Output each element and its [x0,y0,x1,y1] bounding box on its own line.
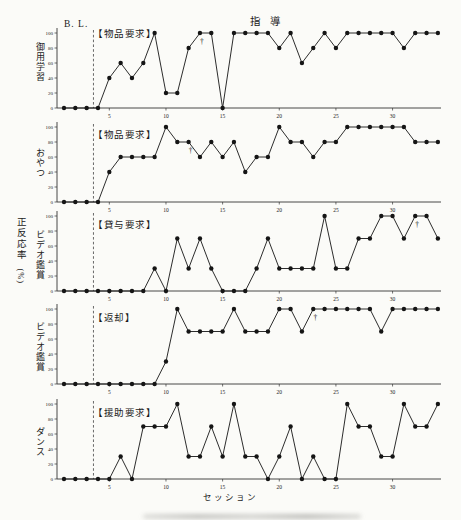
svg-text:20: 20 [48,91,54,96]
subplot-1: 02040608010051015202530† [46,28,442,119]
svg-text:20: 20 [48,185,54,190]
figure: 02040608010051015202530†0204060801005101… [0,0,461,520]
svg-text:100: 100 [46,125,54,130]
svg-text:80: 80 [48,140,54,145]
svg-text:15: 15 [220,484,226,490]
svg-text:30: 30 [390,207,396,213]
svg-text:30: 30 [390,113,396,119]
x-axis-label: セッション [0,490,461,502]
svg-text:25: 25 [333,484,339,490]
svg-text:10: 10 [163,296,169,302]
svg-text:25: 25 [333,296,339,302]
dagger-marker-subplot-1: † [200,37,204,46]
charts-container: 02040608010051015202530†0204060801005101… [0,0,461,520]
svg-text:5: 5 [108,484,111,490]
svg-text:60: 60 [48,244,54,249]
svg-text:0: 0 [51,200,54,205]
svg-text:10: 10 [163,207,169,213]
row-label-dance: ダンス [34,427,47,457]
y-axis-unit: (%) [16,269,26,285]
svg-text:100: 100 [46,214,54,219]
svg-text:25: 25 [333,207,339,213]
row-label-video-1: ビデオ鑑賞 [34,230,47,280]
svg-text:30: 30 [390,296,396,302]
svg-text:10: 10 [163,484,169,490]
svg-text:40: 40 [48,352,54,357]
svg-text:20: 20 [277,207,283,213]
svg-text:30: 30 [390,389,396,395]
svg-text:40: 40 [48,447,54,452]
svg-text:80: 80 [48,229,54,234]
svg-text:5: 5 [108,207,111,213]
svg-text:15: 15 [220,389,226,395]
svg-text:15: 15 [220,113,226,119]
svg-text:0: 0 [51,382,54,387]
instruction-phase-label: 指 導 [220,13,310,28]
svg-text:100: 100 [46,31,54,36]
svg-text:25: 25 [333,113,339,119]
svg-text:80: 80 [48,322,54,327]
svg-text:20: 20 [48,367,54,372]
svg-text:0: 0 [51,289,54,294]
svg-text:15: 15 [220,296,226,302]
y-axis-label-text: 正反応率 [16,217,26,261]
condition-label-5: 【援助要求】 [93,405,156,419]
baseline-phase-label: B. L. [64,19,88,29]
svg-text:40: 40 [48,76,54,81]
svg-text:40: 40 [48,259,54,264]
svg-text:5: 5 [108,389,111,395]
svg-text:0: 0 [51,477,54,482]
svg-text:20: 20 [277,296,283,302]
svg-text:30: 30 [390,484,396,490]
row-label-goyo-gakushu: 御用学習 [34,42,47,82]
dagger-marker-subplot-4: † [313,313,317,322]
svg-text:80: 80 [48,46,54,51]
row-label-video-2: ビデオ鑑賞 [34,322,47,372]
svg-text:80: 80 [48,417,54,422]
svg-text:25: 25 [333,389,339,395]
dagger-marker-subplot-3: † [415,220,419,229]
condition-label-2: 【物品要求】 [93,127,156,141]
condition-label-1: 【物品要求】 [93,26,156,40]
y-axis-label: 正反応率 (%) [14,217,28,284]
svg-text:20: 20 [48,274,54,279]
row-label-oyatsu: おやつ [34,148,47,178]
svg-text:20: 20 [277,389,283,395]
cropped-caption-strip [143,514,361,519]
svg-text:40: 40 [48,170,54,175]
svg-text:0: 0 [51,106,54,111]
svg-text:100: 100 [46,402,54,407]
svg-text:5: 5 [108,113,111,119]
svg-text:5: 5 [108,296,111,302]
condition-label-4: 【返却】 [93,310,135,324]
svg-text:20: 20 [277,484,283,490]
svg-text:60: 60 [48,337,54,342]
svg-text:10: 10 [163,113,169,119]
dagger-marker-subplot-2: † [189,146,193,155]
svg-text:20: 20 [277,113,283,119]
svg-text:20: 20 [48,462,54,467]
svg-text:100: 100 [46,307,54,312]
condition-label-3: 【貸与要求】 [93,217,156,231]
svg-text:60: 60 [48,155,54,160]
svg-text:60: 60 [48,61,54,66]
charts-svg: 02040608010051015202530†0204060801005101… [0,0,461,520]
svg-text:15: 15 [220,207,226,213]
svg-text:10: 10 [163,389,169,395]
svg-text:60: 60 [48,432,54,437]
